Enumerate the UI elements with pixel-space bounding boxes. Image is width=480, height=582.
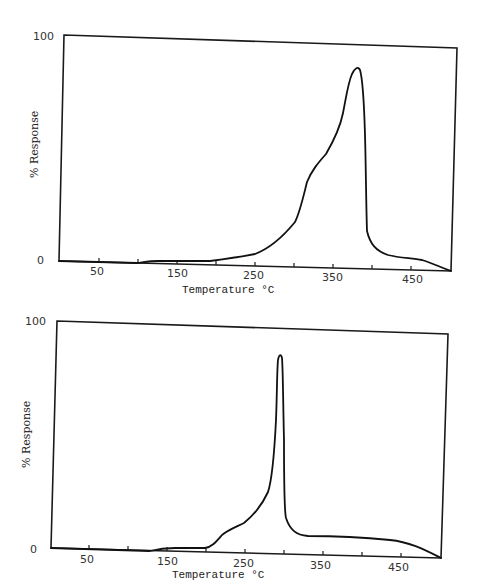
top-x-tick-label-350: 350 (322, 271, 343, 284)
bottom-x-axis-title: Temperature °C (172, 569, 265, 581)
top-y-max-label: 100 (33, 30, 54, 43)
top-chart-frame (59, 35, 457, 271)
top-x-tick-label-250: 250 (243, 269, 264, 282)
top-y-axis-title: % Response (28, 111, 41, 178)
top-chart-curve (59, 68, 451, 271)
top-x-tick-label-450: 450 (402, 273, 423, 286)
bottom-x-tick-label-150: 150 (157, 555, 178, 568)
top-x-axis-title: Temperature °C (182, 284, 275, 296)
bottom-y-axis-title: % Response (20, 401, 33, 468)
bottom-x-tick-label-350: 350 (310, 559, 331, 572)
bottom-x-tick-label-450: 450 (388, 561, 409, 574)
bottom-chart-curve (51, 355, 441, 558)
bottom-y-min-label: 0 (30, 543, 37, 556)
top-chart: 100 0 50 150 250 350 450 Temperature °C … (28, 30, 457, 296)
bottom-x-tick-label-50: 50 (80, 553, 94, 566)
bottom-y-max-label: 100 (25, 315, 46, 328)
top-x-tick-label-150: 150 (167, 267, 188, 280)
top-y-min-label: 0 (37, 254, 44, 267)
bottom-chart-frame (51, 321, 448, 558)
top-x-tick-label-50: 50 (90, 265, 104, 278)
bottom-chart: 100 0 50 150 250 350 450 Temperature °C … (20, 315, 448, 581)
chart-canvas: 100 0 50 150 250 350 450 Temperature °C … (0, 0, 480, 582)
